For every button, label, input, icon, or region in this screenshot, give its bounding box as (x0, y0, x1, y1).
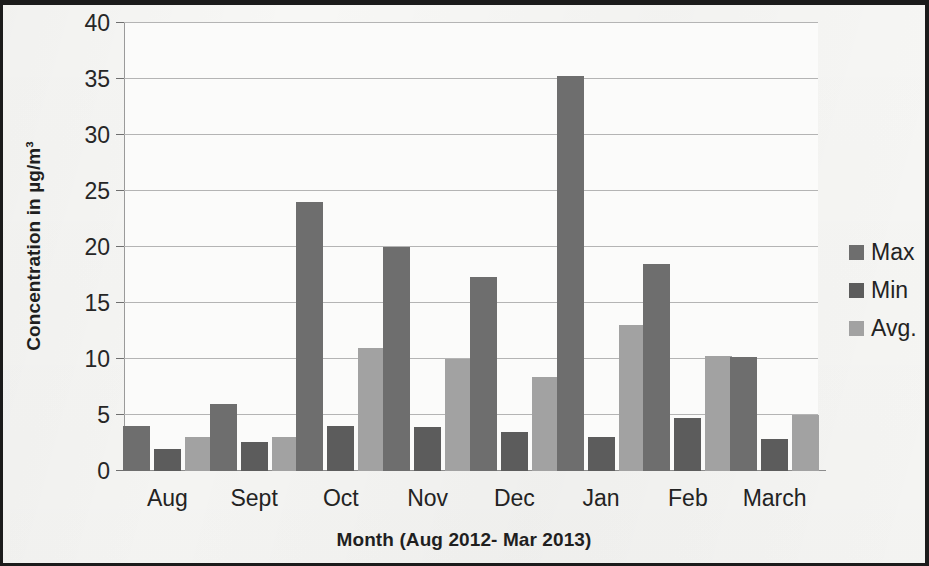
legend-swatch-icon (849, 283, 864, 298)
bar-avg (705, 356, 732, 471)
bar-group: Oct (298, 23, 385, 471)
bar-min (241, 442, 268, 471)
y-axis-tick-label: 20 (84, 236, 110, 259)
legend-swatch-icon (849, 245, 864, 260)
bar-min (501, 432, 528, 471)
bar-max (730, 357, 757, 471)
bar-group: Jan (558, 23, 645, 471)
bar-group: Feb (645, 23, 732, 471)
y-axis-tick-label: 15 (84, 292, 110, 315)
bar-min (761, 439, 788, 471)
x-axis-tick-label: Oct (298, 485, 385, 512)
y-axis-tick-label: 25 (84, 180, 110, 203)
x-axis-tick-label: Aug (124, 485, 211, 512)
chart-legend: MaxMinAvg. (849, 233, 917, 347)
bar-avg (358, 348, 385, 471)
y-axis-title: Concentration in µg/m³ (23, 26, 45, 466)
legend-swatch-icon (849, 321, 864, 336)
bar-group: March (731, 23, 818, 471)
x-axis-tick-label: Nov (384, 485, 471, 512)
y-axis-tick-label: 30 (84, 124, 110, 147)
y-axis-tick (116, 358, 124, 359)
bar-max (643, 264, 670, 471)
bar-min (154, 449, 181, 471)
y-axis-tick (116, 134, 124, 135)
y-axis-tick (116, 190, 124, 191)
legend-item: Avg. (849, 309, 917, 347)
plot-area: 0510152025303540 AugSeptOctNovDecJanFebM… (124, 23, 818, 471)
bar-avg (532, 377, 559, 471)
bar-min (588, 437, 615, 471)
x-axis-tick-label: Jan (558, 485, 645, 512)
y-axis-tick-label: 40 (84, 12, 110, 35)
x-axis-tick-label: Feb (645, 485, 732, 512)
bar-avg (445, 359, 472, 471)
x-axis-tick-label: March (731, 485, 818, 512)
bar-max (383, 247, 410, 471)
chart-figure: Concentration in µg/m³ 0510152025303540 … (0, 0, 929, 566)
y-axis-tick-label: 35 (84, 68, 110, 91)
bar-avg (272, 437, 299, 471)
y-axis-tick-label: 10 (84, 348, 110, 371)
bar-group: Sept (211, 23, 298, 471)
bar-group: Aug (124, 23, 211, 471)
bar-max (123, 426, 150, 471)
legend-label: Avg. (871, 317, 917, 340)
y-axis-tick (116, 302, 124, 303)
x-axis-tick-label: Sept (211, 485, 298, 512)
legend-item: Max (849, 233, 917, 271)
bar-group: Nov (384, 23, 471, 471)
bar-avg (619, 325, 646, 471)
bar-max (296, 202, 323, 471)
y-axis-tick (116, 78, 124, 79)
bar-min (414, 427, 441, 471)
bar-max (470, 277, 497, 471)
y-axis-tick-label: 5 (97, 404, 110, 427)
legend-label: Max (871, 241, 914, 264)
legend-label: Min (871, 279, 908, 302)
bar-max (210, 404, 237, 471)
bar-avg (185, 437, 212, 471)
bar-max (557, 76, 584, 471)
x-axis-title: Month (Aug 2012- Mar 2013) (3, 529, 925, 551)
bar-min (674, 418, 701, 471)
legend-item: Min (849, 271, 917, 309)
y-axis-tick (116, 414, 124, 415)
bar-avg (792, 415, 819, 471)
bar-group: Dec (471, 23, 558, 471)
y-axis-tick (116, 22, 124, 23)
y-axis-tick (116, 246, 124, 247)
x-axis-tick-label: Dec (471, 485, 558, 512)
bar-min (327, 426, 354, 471)
y-axis-tick-label: 0 (97, 460, 110, 483)
